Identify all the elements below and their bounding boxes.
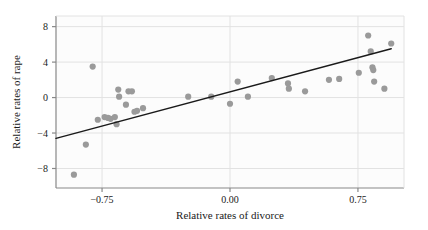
data-point bbox=[365, 32, 371, 38]
data-point bbox=[112, 114, 118, 120]
data-point bbox=[129, 88, 135, 94]
data-point bbox=[90, 63, 96, 69]
x-tick-label: 0.75 bbox=[349, 194, 367, 205]
y-tick-label: 8 bbox=[43, 21, 48, 32]
data-point bbox=[140, 105, 146, 111]
x-tick-label: −0.75 bbox=[90, 194, 113, 205]
data-point bbox=[71, 172, 77, 178]
data-point bbox=[185, 94, 191, 100]
data-point bbox=[285, 80, 291, 86]
y-axis-title: Relative rates of rape bbox=[10, 55, 22, 149]
data-point bbox=[227, 101, 233, 107]
data-point bbox=[123, 102, 129, 108]
data-point bbox=[326, 77, 332, 83]
data-point bbox=[286, 86, 292, 92]
data-point bbox=[381, 86, 387, 92]
y-tick-label: −4 bbox=[37, 128, 48, 139]
x-axis-title: Relative rates of divorce bbox=[176, 209, 284, 221]
y-tick-label: 4 bbox=[43, 57, 48, 68]
data-point bbox=[370, 67, 376, 73]
data-point bbox=[388, 40, 394, 46]
data-point bbox=[95, 117, 101, 123]
y-tick-label: 0 bbox=[43, 92, 48, 103]
data-point bbox=[235, 79, 241, 85]
data-point bbox=[371, 79, 377, 85]
scatter-plot-figure: 840−4−8−0.750.000.75Relative rates of di… bbox=[0, 0, 428, 230]
data-point bbox=[245, 94, 251, 100]
data-point bbox=[134, 108, 140, 114]
chart-canvas: 840−4−8−0.750.000.75Relative rates of di… bbox=[0, 0, 428, 230]
y-tick-label: −8 bbox=[37, 163, 48, 174]
data-point bbox=[336, 76, 342, 82]
data-point bbox=[302, 88, 308, 94]
data-point bbox=[115, 86, 121, 92]
data-point bbox=[356, 70, 362, 76]
data-point bbox=[116, 94, 122, 100]
data-point bbox=[83, 141, 89, 147]
x-tick-label: 0.00 bbox=[221, 194, 239, 205]
